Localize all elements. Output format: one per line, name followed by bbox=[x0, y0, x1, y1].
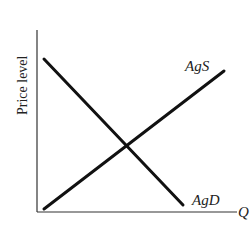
ad-as-diagram: Price level AgS AgD Q bbox=[0, 0, 251, 225]
agD-label: AgD bbox=[191, 192, 220, 208]
y-axis-label: Price level bbox=[15, 55, 30, 115]
aggregate-demand-curve bbox=[44, 59, 183, 205]
x-axis-label: Q bbox=[238, 204, 249, 220]
aggregate-supply-curve bbox=[44, 71, 224, 209]
agS-label: AgS bbox=[184, 58, 210, 74]
